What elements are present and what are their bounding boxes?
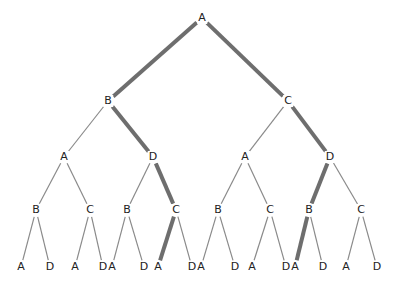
tree-node-a: A (196, 261, 206, 273)
tree-node-a: A (16, 261, 26, 273)
highlighted-edge (160, 217, 174, 261)
highlighted-edge (156, 163, 173, 203)
tree-node-a: A (341, 261, 351, 273)
tree-node-b: B (103, 95, 113, 107)
tree-edge (178, 217, 190, 261)
tree-edge (39, 163, 60, 204)
tree-edge (77, 217, 88, 260)
tree-node-a: A (197, 12, 207, 24)
tree-edge (249, 107, 283, 152)
tree-edge (92, 217, 102, 260)
tree-node-b: B (31, 204, 41, 216)
tree-edge (114, 217, 125, 260)
tree-edge (221, 163, 242, 204)
highlighted-edge (112, 107, 148, 152)
tree-node-a: A (247, 261, 257, 273)
tree-edge (23, 217, 34, 260)
tree-edge (129, 217, 142, 261)
tree-node-c: C (171, 204, 181, 216)
tree-node-a: A (290, 261, 300, 273)
highlighted-edge (113, 23, 197, 97)
tree-node-d: D (148, 151, 158, 163)
tree-node-d: D (230, 261, 240, 273)
tree-node-d: D (45, 261, 55, 273)
tree-node-b: B (122, 204, 132, 216)
tree-edge (67, 163, 87, 203)
tree-edge (203, 217, 216, 261)
tree-node-d: D (139, 261, 149, 273)
highlighted-edge (292, 107, 326, 152)
tree-node-c: C (265, 204, 275, 216)
tree-node-a: A (240, 151, 250, 163)
tree-node-c: C (356, 204, 366, 216)
tree-edge (334, 163, 358, 204)
tree-node-d: D (318, 261, 328, 273)
tree-node-c: C (283, 95, 293, 107)
tree-node-a: A (153, 261, 163, 273)
tree-edges (0, 0, 402, 286)
tree-edge (272, 217, 284, 261)
tree-node-a: A (70, 261, 80, 273)
tree-edge (348, 217, 359, 260)
tree-edge (130, 163, 150, 203)
tree-node-a: A (59, 151, 69, 163)
tree-edge (363, 217, 375, 261)
tree-edge (254, 217, 268, 261)
tree-node-d: D (372, 261, 382, 273)
highlighted-edge (207, 23, 283, 96)
tree-diagram: ABCADADBCBCBCBCADADADADADADADAD (0, 0, 402, 286)
tree-edge (248, 163, 267, 203)
tree-edge (38, 217, 49, 260)
tree-edge (68, 107, 103, 152)
tree-node-b: B (213, 204, 223, 216)
tree-edge (220, 217, 233, 261)
tree-node-a: A (107, 261, 117, 273)
tree-node-c: C (85, 204, 95, 216)
tree-edge (311, 217, 322, 260)
highlighted-edge (312, 164, 328, 204)
tree-node-b: B (304, 204, 314, 216)
highlighted-edge (297, 217, 308, 260)
tree-node-d: D (325, 151, 335, 163)
